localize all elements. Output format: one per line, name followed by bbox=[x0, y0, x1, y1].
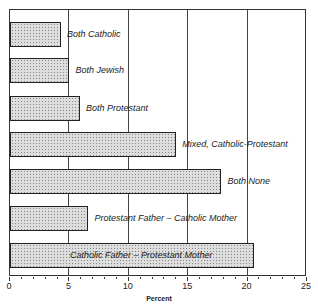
tick-mark bbox=[270, 277, 271, 279]
tick-mark bbox=[104, 277, 105, 279]
tick-mark bbox=[294, 277, 295, 279]
plot-area: Both CatholicBoth JewishBoth ProtestantM… bbox=[9, 9, 306, 276]
bar bbox=[10, 132, 176, 157]
tick-mark bbox=[152, 277, 153, 279]
tick-mark bbox=[258, 277, 259, 279]
tick-mark bbox=[80, 277, 81, 279]
tick-mark bbox=[21, 277, 22, 279]
bar bbox=[10, 96, 80, 121]
bar bbox=[10, 22, 61, 47]
bar bbox=[10, 58, 69, 83]
tick-mark bbox=[175, 277, 176, 279]
tick-mark bbox=[57, 277, 58, 279]
bar-label: Catholic Father – Protestant Mother bbox=[70, 243, 213, 268]
tick-mark bbox=[92, 277, 93, 279]
tick-label: 20 bbox=[242, 281, 252, 291]
bar-label: Both Protestant bbox=[86, 96, 148, 121]
tick-label: 25 bbox=[301, 281, 311, 291]
bar-label: Mixed, Catholic-Protestant bbox=[182, 132, 288, 157]
bar-label: Both Catholic bbox=[67, 22, 121, 47]
bar bbox=[10, 169, 221, 194]
tick-mark bbox=[33, 277, 34, 279]
tick-mark bbox=[163, 277, 164, 279]
tick-label: 5 bbox=[66, 281, 71, 291]
tick-label: 10 bbox=[123, 281, 133, 291]
bar bbox=[10, 206, 88, 231]
tick-mark bbox=[116, 277, 117, 279]
tick-mark bbox=[223, 277, 224, 279]
bar-label: Both Jewish bbox=[75, 58, 124, 83]
bar-label: Both None bbox=[227, 169, 270, 194]
bar-label: Protestant Father – Catholic Mother bbox=[94, 206, 237, 231]
x-axis-label: Percent bbox=[0, 295, 318, 302]
tick-label: 0 bbox=[6, 281, 11, 291]
tick-mark bbox=[140, 277, 141, 279]
tick-mark bbox=[199, 277, 200, 279]
tick-label: 15 bbox=[182, 281, 192, 291]
tick-mark bbox=[211, 277, 212, 279]
tick-mark bbox=[282, 277, 283, 279]
tick-mark bbox=[235, 277, 236, 279]
tick-mark bbox=[45, 277, 46, 279]
